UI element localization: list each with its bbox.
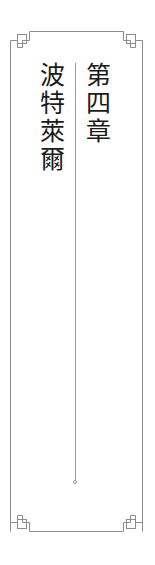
- vertical-divider-rule: [75, 63, 76, 482]
- chapter-title-page: 第四章 波特萊爾: [0, 0, 155, 565]
- divider-terminus-circle-icon: [73, 480, 77, 484]
- chapter-number: 第四章: [83, 62, 109, 146]
- decorative-border-frame: [0, 0, 155, 565]
- chapter-title: 波特萊爾: [37, 62, 63, 174]
